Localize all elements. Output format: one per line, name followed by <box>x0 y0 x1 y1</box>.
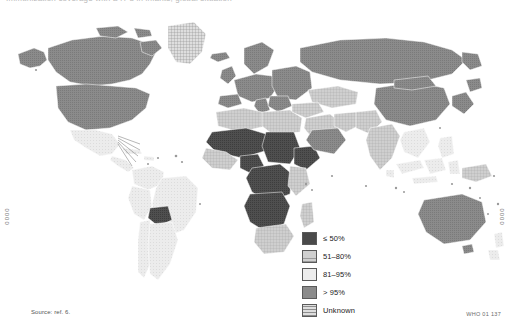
legend-swatch-dark <box>302 232 317 245</box>
legend-label: > 95% <box>323 288 345 297</box>
region-tasmania <box>462 244 474 254</box>
map-legend: ≤ 50% 51–80% 81–95% > 95% Unknown <box>302 230 398 320</box>
legend-swatch-fine-grid <box>302 250 317 263</box>
document-code: WHO 01 137 <box>466 311 501 317</box>
edge-mark-left: 0000 <box>4 203 10 229</box>
region-sulawesi <box>448 160 460 174</box>
legend-label: ≤ 50% <box>323 234 345 243</box>
map-canvas <box>0 8 509 308</box>
legend-item: > 95% <box>302 284 398 300</box>
legend-item: ≤ 50% <box>302 230 398 246</box>
legend-swatch-mid-gray <box>302 286 317 299</box>
legend-item: 81–95% <box>302 266 398 282</box>
legend-label: 51–80% <box>323 252 351 261</box>
legend-swatch-hatch-grid <box>302 304 317 317</box>
region-new-zealand <box>494 232 504 248</box>
legend-label: Unknown <box>323 306 355 315</box>
world-map-svg <box>0 8 509 308</box>
legend-item: Unknown <box>302 302 398 318</box>
legend-label: 81–95% <box>323 270 351 279</box>
source-note: Source: ref. 6. <box>31 309 70 315</box>
region-hispaniola <box>144 156 154 161</box>
region-new-zealand-south <box>488 250 500 260</box>
figure-title-strip: Immunization coverage with DTP3 in infan… <box>0 0 509 7</box>
page-title: Immunization coverage with DTP3 in infan… <box>6 0 232 3</box>
legend-swatch-light <box>302 268 317 281</box>
legend-item: 51–80% <box>302 248 398 264</box>
edge-mark-right: 0000 <box>499 203 505 229</box>
world-map-figure: Immunization coverage with DTP3 in infan… <box>0 0 509 334</box>
